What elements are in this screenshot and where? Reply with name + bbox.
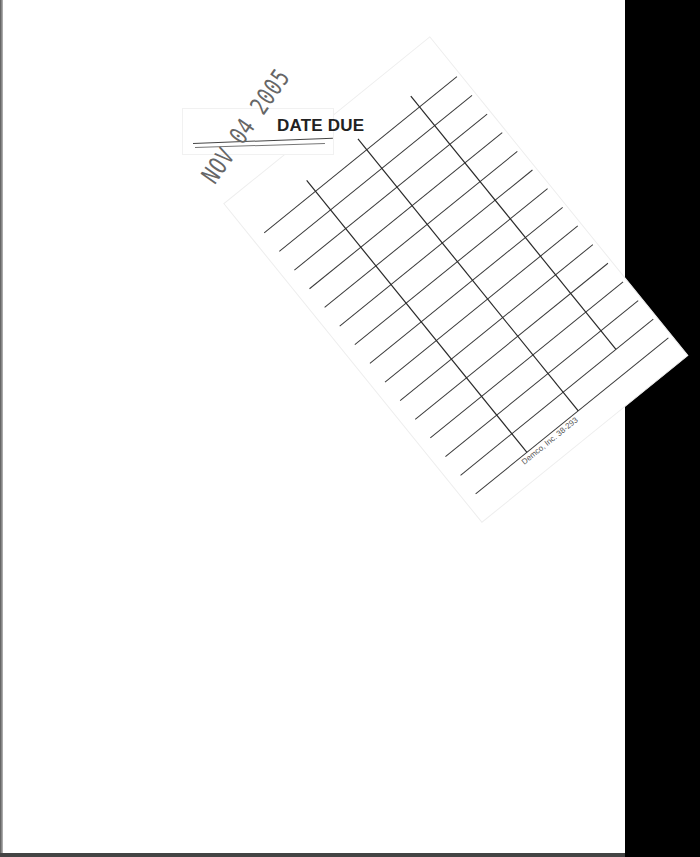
scanned-page: Demco, Inc. 38-293 DATE DUE NOV 04 2005 [0,0,700,857]
card-title: DATE DUE [277,116,364,136]
